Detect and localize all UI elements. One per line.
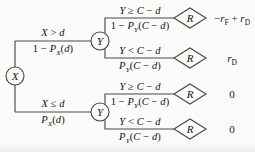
branch-condition-y-lt-1: Y < C − d: [102, 45, 178, 57]
branch-probability-y-lt-1: PY(C − d): [102, 60, 178, 74]
branch-probability-x-le-d: PX(d): [18, 114, 88, 128]
root-node-label: X: [6, 68, 24, 84]
branch-condition-y-lt-2: Y < C − d: [102, 116, 178, 128]
branch-condition-y-ge-2: Y ≥ C − d: [102, 81, 178, 93]
probability-tree-diagram: X Y Y R R R R X > d 1 − PX(d) X ≤ d PX(d…: [0, 0, 255, 152]
branch-probability-y-lt-2: PY(C − d): [102, 131, 178, 145]
branch-probability-x-gt-d: 1 − PX(d): [18, 43, 88, 57]
outcome-value-1: −rF + rD: [209, 11, 255, 25]
branch-condition-x-le-d: X ≤ d: [18, 98, 88, 110]
result-node-label-4: R: [174, 121, 206, 137]
branch-condition-y-ge-1: Y ≥ C − d: [102, 5, 178, 17]
result-node-label-2: R: [174, 50, 206, 66]
result-node-label-1: R: [174, 10, 206, 26]
outcome-value-3: 0: [209, 87, 255, 101]
branch-probability-y-ge-1: 1 − PY(C − d): [102, 20, 178, 34]
branch-probability-y-ge-2: 1 − PY(C − d): [102, 96, 178, 110]
result-node-label-3: R: [174, 86, 206, 102]
outcome-value-4: 0: [209, 122, 255, 136]
branch-condition-x-gt-d: X > d: [18, 27, 88, 39]
outcome-value-2: rD: [209, 51, 255, 65]
